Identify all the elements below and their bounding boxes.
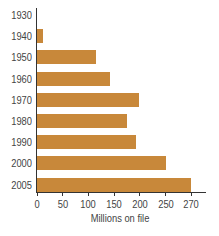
x-tick-label: 200: [127, 198, 153, 210]
x-tick: [114, 192, 115, 196]
bar-1990: [37, 135, 136, 149]
bar-1950: [37, 50, 96, 64]
x-tick: [139, 192, 140, 196]
x-tick-label: 250: [153, 198, 179, 210]
bar-1980: [37, 114, 127, 128]
y-tick-label: 1930: [5, 9, 32, 22]
x-tick: [165, 192, 166, 196]
y-tick-label: 2000: [5, 157, 32, 170]
bar-1970: [37, 93, 139, 107]
y-tick-label: 1980: [5, 115, 32, 128]
y-tick-label: 1970: [5, 94, 32, 107]
bar-2000: [37, 156, 166, 170]
bar-1960: [37, 72, 110, 86]
x-tick: [62, 192, 63, 196]
x-tick: [191, 192, 192, 196]
y-tick-label: 1940: [5, 30, 32, 43]
x-tick-label: 0: [24, 198, 50, 210]
x-axis-label: Millions on file: [78, 212, 163, 224]
x-tick-label: 270: [178, 198, 204, 210]
x-tick-label: 150: [101, 198, 127, 210]
x-tick: [37, 192, 38, 196]
bar-1940: [37, 29, 43, 43]
x-tick: [88, 192, 89, 196]
x-tick-label: 50: [50, 198, 76, 210]
y-tick-label: 1950: [5, 51, 32, 64]
y-tick-label: 1960: [5, 73, 32, 86]
y-tick-label: 1990: [5, 136, 32, 149]
bar-chart: 193019401950196019701980199020002005 050…: [0, 0, 219, 236]
bar-2005: [37, 178, 191, 192]
y-tick-label: 2005: [5, 179, 32, 192]
x-tick-label: 100: [76, 198, 102, 210]
